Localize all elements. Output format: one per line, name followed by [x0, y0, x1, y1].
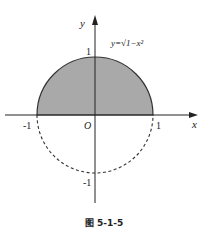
x-axis-label: x	[191, 118, 197, 130]
y-tick-1: 1	[86, 46, 91, 57]
x-tick-1: 1	[156, 120, 161, 131]
equation-label: y=√1−x²	[110, 38, 144, 48]
x-tick-neg1: -1	[23, 120, 31, 131]
figure-caption: 图 5-1-5	[85, 218, 123, 228]
y-axis-label: y	[79, 17, 85, 29]
y-tick-neg1: -1	[83, 177, 91, 188]
origin-label: O	[84, 120, 91, 131]
y-axis-arrow-icon	[92, 15, 98, 25]
unit-circle-diagram: y x O -1 1 1 -1 y=√1−x² 图 5-1-5	[0, 0, 208, 244]
